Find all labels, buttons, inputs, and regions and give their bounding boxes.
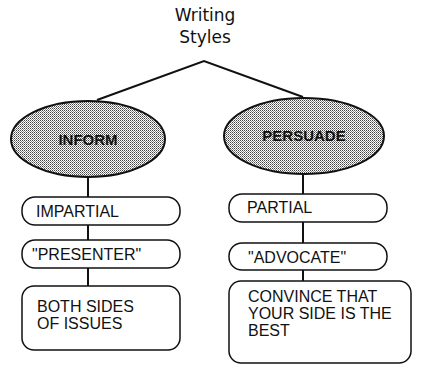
convince-text: CONVINCE THAT YOUR SIDE IS THE BEST	[248, 288, 392, 339]
title-line-2: Styles	[150, 26, 260, 48]
connector-title-to-branches	[97, 61, 303, 100]
impartial-label: IMPARTIAL	[36, 203, 119, 220]
advocate-label: "ADVOCATE"	[248, 249, 346, 266]
both-sides-line-1: BOTH SIDES	[37, 298, 134, 315]
convince-line-2: YOUR SIDE IS THE	[248, 305, 392, 322]
convince-line-3: BEST	[248, 322, 392, 339]
both-sides-text: BOTH SIDES OF ISSUES	[37, 298, 134, 332]
convince-line-1: CONVINCE THAT	[248, 288, 392, 305]
presenter-label: "PRESENTER"	[32, 246, 141, 263]
inform-label: INFORM	[11, 131, 165, 148]
persuade-label: PERSUADE	[224, 127, 384, 144]
title-line-1: Writing	[150, 4, 260, 26]
diagram-title: Writing Styles	[150, 4, 260, 48]
partial-label: PARTIAL	[247, 199, 312, 216]
both-sides-line-2: OF ISSUES	[37, 315, 134, 332]
